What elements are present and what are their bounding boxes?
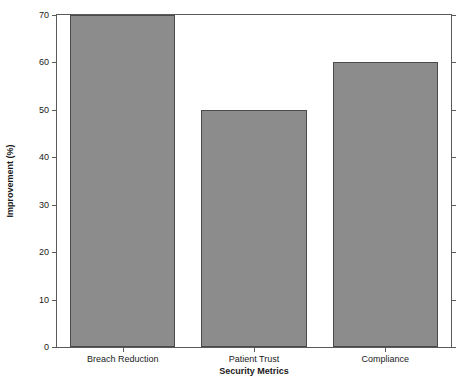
bar-slot	[188, 15, 319, 347]
y-axis-tick	[52, 62, 57, 63]
bar	[333, 62, 438, 347]
bar-slot	[320, 15, 451, 347]
y-axis-tick	[52, 110, 57, 111]
y-axis-tick-label: 0	[44, 342, 49, 352]
y-axis-label-wrap: Improvement (%)	[2, 14, 18, 348]
y-axis-tick-right	[451, 300, 456, 301]
x-axis-tick-label: Breach Reduction	[87, 354, 159, 364]
y-axis-tick-right	[451, 110, 456, 111]
bar-chart-figure: 010203040506070Breach ReductionPatient T…	[0, 0, 456, 380]
chart-title-clipped	[0, 0, 456, 6]
plot-inner	[57, 15, 451, 347]
y-axis-tick-label: 40	[39, 152, 49, 162]
x-axis-tick-label: Patient Trust	[229, 354, 280, 364]
y-axis-tick	[52, 300, 57, 301]
y-axis-tick	[52, 157, 57, 158]
y-axis-tick-label: 70	[39, 10, 49, 20]
y-axis-tick	[52, 15, 57, 16]
y-axis-tick-right	[451, 205, 456, 206]
y-axis-tick-right	[451, 15, 456, 16]
y-axis-tick-label: 10	[39, 295, 49, 305]
bar	[201, 110, 306, 347]
y-axis-tick	[52, 252, 57, 253]
y-axis-tick	[52, 205, 57, 206]
bar	[70, 15, 175, 347]
y-axis-label: Improvement (%)	[5, 144, 15, 217]
x-axis-tick	[254, 347, 255, 352]
y-axis-tick-label: 50	[39, 105, 49, 115]
y-axis-tick-label: 20	[39, 247, 49, 257]
bar-slot	[57, 15, 188, 347]
x-axis-tick-label: Compliance	[362, 354, 410, 364]
y-axis-tick	[52, 347, 57, 348]
x-axis-tick	[385, 347, 386, 352]
plot-area: 010203040506070Breach ReductionPatient T…	[56, 14, 452, 348]
y-axis-tick-right	[451, 157, 456, 158]
y-axis-tick-label: 30	[39, 200, 49, 210]
y-axis-tick-right	[451, 347, 456, 348]
y-axis-tick-right	[451, 62, 456, 63]
y-axis-tick-label: 60	[39, 57, 49, 67]
y-axis-tick-right	[451, 252, 456, 253]
x-axis-tick	[123, 347, 124, 352]
x-axis-label: Security Metrics	[56, 366, 452, 376]
